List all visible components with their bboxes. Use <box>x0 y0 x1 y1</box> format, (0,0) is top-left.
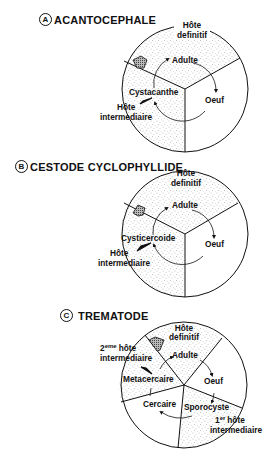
svg-text:Adulte: Adulte <box>172 350 198 360</box>
svg-text:definitif: definitif <box>177 30 207 40</box>
svg-text:intermediaire: intermediaire <box>98 258 150 268</box>
svg-text:Hôte: Hôte <box>177 168 196 178</box>
svg-text:intermediaire: intermediaire <box>100 112 152 122</box>
life-cycle-diagrams: Hôte definitif Adulte Oeuf Cystacanthe H… <box>0 0 278 461</box>
svg-text:Metacercaire: Metacercaire <box>123 374 174 384</box>
svg-text:intermediaire: intermediaire <box>210 425 262 435</box>
svg-text:Hôte: Hôte <box>117 102 136 112</box>
diagram-acantocephale: Hôte definitif Adulte Oeuf Cystacanthe H… <box>100 18 248 152</box>
svg-text:Cysticercoide: Cysticercoide <box>121 233 176 243</box>
diagram-cestode: Hôte definitif Adulte Oeuf Cysticercoide… <box>98 168 248 297</box>
svg-text:Adulte: Adulte <box>172 55 198 65</box>
svg-text:Oeuf: Oeuf <box>205 95 224 105</box>
svg-text:Cercaire: Cercaire <box>143 399 177 409</box>
svg-text:intermediaire: intermediaire <box>100 353 152 363</box>
svg-text:Hôte: Hôte <box>110 248 129 258</box>
svg-text:Sporocyste: Sporocyste <box>184 402 230 412</box>
diagram-trematode: Hôte definitif 2emehôte intermediaire Ad… <box>100 322 262 448</box>
svg-text:Oeuf: Oeuf <box>205 239 224 249</box>
svg-text:definitif: definitif <box>171 178 201 188</box>
svg-text:2emehôte: 2emehôte <box>100 343 137 353</box>
svg-text:Oeuf: Oeuf <box>204 376 223 386</box>
svg-text:Adulte: Adulte <box>172 200 198 210</box>
svg-text:Cystacanthe: Cystacanthe <box>129 87 179 97</box>
svg-text:Hôte: Hôte <box>183 20 202 30</box>
svg-text:1erhôte: 1erhôte <box>215 415 245 425</box>
svg-text:definitif: definitif <box>169 332 199 342</box>
